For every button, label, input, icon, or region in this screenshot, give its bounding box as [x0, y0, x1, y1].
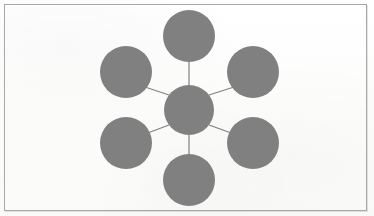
node-hub: [164, 85, 214, 135]
figure-root: Hub and spoke node diagram A central cir…: [0, 0, 374, 216]
nodes-layer: [100, 10, 279, 206]
hub-and-spoke-diagram: Hub and spoke node diagram A central cir…: [0, 0, 374, 216]
node-satellite-se: [227, 117, 279, 169]
spoke-nw: [145, 87, 169, 95]
node-satellite-n: [163, 10, 215, 62]
node-satellite-ne: [227, 46, 279, 98]
node-satellite-sw: [100, 117, 152, 169]
spoke-ne: [209, 87, 234, 95]
node-satellite-nw: [100, 46, 152, 98]
node-satellite-s: [163, 154, 215, 206]
